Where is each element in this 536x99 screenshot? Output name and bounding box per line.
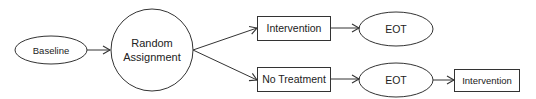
eot-top-node: EOT <box>359 12 433 46</box>
random-assignment-label-line2: Assignment <box>123 51 180 63</box>
eot-bottom-label: EOT <box>385 74 407 86</box>
no-treatment-label: No Treatment <box>262 73 326 85</box>
intervention-top-node: Intervention <box>258 17 331 41</box>
baseline-label: Baseline <box>33 45 69 56</box>
baseline-node: Baseline <box>15 36 87 64</box>
study-design-diagram: Baseline Random Assignment Intervention … <box>0 0 536 99</box>
random-assignment-label-line1: Random <box>131 37 173 49</box>
random-assignment-node: Random Assignment <box>111 9 193 91</box>
intervention-bottom-label: Intervention <box>462 75 512 86</box>
intervention-bottom-node: Intervention <box>455 70 520 92</box>
eot-bottom-node: EOT <box>359 63 433 97</box>
arrow-random-to-intervention <box>193 28 257 50</box>
arrow-random-to-no-treatment <box>193 50 257 80</box>
diagram-svg: Baseline Random Assignment Intervention … <box>0 0 536 99</box>
eot-top-label: EOT <box>385 23 407 35</box>
no-treatment-node: No Treatment <box>258 68 331 92</box>
intervention-top-label: Intervention <box>267 22 322 34</box>
